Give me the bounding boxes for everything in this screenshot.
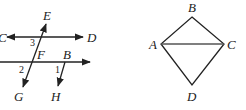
label-b-left: B xyxy=(63,47,71,62)
label-f: F xyxy=(36,47,46,62)
label-g: G xyxy=(14,89,24,104)
label-h: H xyxy=(50,89,61,104)
label-e: E xyxy=(42,8,51,23)
angle-2-label: 2 xyxy=(19,64,24,75)
quadrilateral-abcd xyxy=(161,17,224,85)
diagram-canvas: C D E F B G H 3 2 1 B A C D xyxy=(0,0,246,110)
label-d: D xyxy=(86,30,97,45)
quadrilateral-figure: B A C D xyxy=(148,0,236,104)
parallel-lines-figure: C D E F B G H 3 2 1 xyxy=(0,8,97,104)
label-c: C xyxy=(0,30,7,45)
angle-1-label: 1 xyxy=(55,64,60,75)
label-d-right: D xyxy=(186,89,197,104)
angle-3-label: 3 xyxy=(30,37,35,48)
label-b-right: B xyxy=(188,0,196,15)
label-c-right: C xyxy=(227,37,236,52)
label-a: A xyxy=(148,37,157,52)
